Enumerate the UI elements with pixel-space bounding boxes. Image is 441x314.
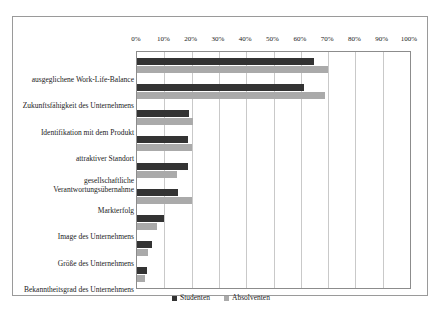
axis-tick-label: 100% bbox=[401, 35, 417, 44]
category-axis-labels: ausgeglichene Work-Life-BalanceZukunftsf… bbox=[17, 51, 134, 289]
bar-studenten bbox=[137, 58, 314, 65]
bar-studenten bbox=[137, 136, 188, 143]
bar-group bbox=[137, 267, 410, 282]
category-label: Größe des Unternehmens bbox=[17, 259, 134, 269]
category-label: Image des Unternehmens bbox=[17, 232, 134, 242]
legend-label: Absolventen bbox=[232, 293, 270, 303]
bar-studenten bbox=[137, 84, 304, 91]
gridline bbox=[410, 52, 411, 288]
plot-wrapper: 0%10%20%30%40%50%60%70%80%90%100% bbox=[136, 35, 411, 289]
bar-group bbox=[137, 58, 410, 73]
bar-absolventen bbox=[137, 66, 328, 73]
plot-area bbox=[136, 51, 411, 289]
legend-swatch-icon bbox=[172, 296, 177, 301]
bar-group bbox=[137, 241, 410, 256]
axis-tick-label: 20% bbox=[184, 35, 197, 44]
bar-group bbox=[137, 163, 410, 178]
bar-absolventen bbox=[137, 118, 193, 125]
bar-group bbox=[137, 215, 410, 230]
axis-tick-label: 70% bbox=[321, 35, 334, 44]
category-label: attraktiver Standort bbox=[17, 154, 134, 164]
bar-studenten bbox=[137, 215, 164, 222]
bar-absolventen bbox=[137, 171, 177, 178]
bar-studenten bbox=[137, 189, 178, 196]
bar-absolventen bbox=[137, 223, 157, 230]
axis-tick-label: 80% bbox=[348, 35, 361, 44]
axis-tick-label: 50% bbox=[266, 35, 279, 44]
bars-container bbox=[137, 52, 410, 288]
chart-figure: ausgeglichene Work-Life-BalanceZukunftsf… bbox=[12, 16, 428, 296]
bar-absolventen bbox=[137, 249, 148, 256]
axis-tick-label: 30% bbox=[211, 35, 224, 44]
bar-absolventen bbox=[137, 92, 325, 99]
chart-legend: StudentenAbsolventen bbox=[13, 293, 429, 303]
axis-tick-label: 60% bbox=[293, 35, 306, 44]
axis-tick-label: 10% bbox=[157, 35, 170, 44]
bar-group bbox=[137, 189, 410, 204]
bar-group bbox=[137, 136, 410, 151]
category-label: Identifikation mit dem Produkt bbox=[17, 128, 134, 138]
axis-tick-label: 40% bbox=[239, 35, 252, 44]
value-axis-ticks: 0%10%20%30%40%50%60%70%80%90%100% bbox=[136, 35, 411, 49]
axis-tick-label: 90% bbox=[375, 35, 388, 44]
legend-swatch-icon bbox=[224, 296, 229, 301]
category-label: Markterfolg bbox=[17, 206, 134, 216]
bar-absolventen bbox=[137, 144, 192, 151]
axis-tick-label: 0% bbox=[131, 35, 140, 44]
bar-absolventen bbox=[137, 275, 145, 282]
bar-group bbox=[137, 110, 410, 125]
legend-item[interactable]: Absolventen bbox=[224, 293, 270, 303]
legend-label: Studenten bbox=[180, 293, 210, 303]
legend-item[interactable]: Studenten bbox=[172, 293, 210, 303]
bar-studenten bbox=[137, 163, 188, 170]
bar-studenten bbox=[137, 241, 152, 248]
bar-studenten bbox=[137, 110, 189, 117]
bar-studenten bbox=[137, 267, 147, 274]
category-label: ausgeglichene Work-Life-Balance bbox=[17, 75, 134, 85]
category-label: Zukunftsfähigkeit des Unternehmens bbox=[17, 101, 134, 111]
bar-absolventen bbox=[137, 197, 192, 204]
bar-group bbox=[137, 84, 410, 99]
category-label: gesellschaftliche Verantwortungsübernahm… bbox=[17, 176, 134, 195]
